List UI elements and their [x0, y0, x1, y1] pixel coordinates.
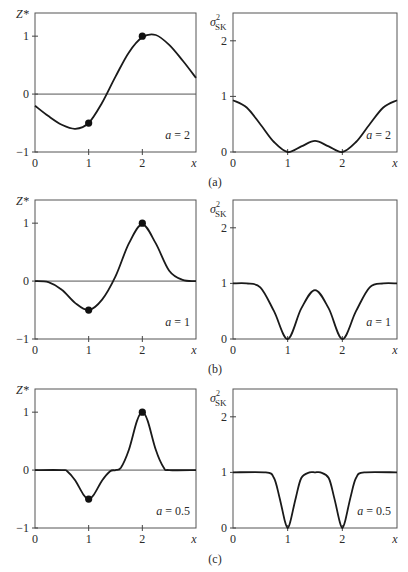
y-tick-label: 0 [221, 145, 227, 159]
x-tick-label: 1 [285, 532, 291, 546]
x-tick-label: 0 [230, 343, 236, 357]
panel-c-left: 10−1012xZ*a = 0.5 [16, 383, 197, 546]
a-annotation: a = 0.5 [357, 504, 391, 518]
x-tick-label: 2 [339, 343, 345, 357]
y-axis-label: σ2SK [210, 13, 227, 32]
x-tick-label: 1 [285, 343, 291, 357]
y-tick-label: −1 [16, 521, 29, 535]
panel-caption: (a) [208, 175, 221, 189]
a-annotation: a = 0.5 [156, 504, 190, 518]
data-point [85, 495, 92, 502]
x-tick-label: 1 [86, 156, 92, 170]
a-annotation: a = 1 [366, 315, 391, 329]
panel-a-right: 210012xσ2SKa = 2 [210, 13, 398, 170]
x-tick-label: 1 [285, 156, 291, 170]
panel-b-right: 210012xσ2SKa = 1 [210, 200, 398, 357]
a-annotation: a = 1 [165, 315, 190, 329]
data-point [85, 119, 92, 126]
variance-curve [233, 472, 397, 528]
y-tick-label: 1 [23, 216, 29, 230]
y-tick-label: 0 [221, 332, 227, 346]
data-point [139, 409, 146, 416]
data-point [139, 33, 146, 40]
data-point [85, 306, 92, 313]
y-axis-label: Z* [16, 7, 29, 21]
y-tick-label: −1 [16, 145, 29, 159]
a-annotation: a = 2 [366, 128, 391, 142]
y-tick-label: −1 [16, 332, 29, 346]
x-axis-label: x [190, 532, 197, 546]
variance-curve [233, 100, 397, 152]
x-axis-label: x [391, 156, 398, 170]
panel-caption: (c) [208, 552, 221, 566]
estimate-curve [35, 224, 196, 310]
data-point [139, 220, 146, 227]
y-axis-label: σ2SK [210, 200, 227, 219]
panel-b-left: 10−1012xZ*a = 1 [16, 194, 197, 357]
x-tick-label: 0 [32, 156, 38, 170]
x-tick-label: 0 [230, 532, 236, 546]
y-tick-label: 0 [23, 87, 29, 101]
y-tick-label: 2 [221, 34, 227, 48]
estimate-curve [35, 412, 196, 499]
y-axis-label: Z* [16, 194, 29, 208]
kriging-figure: 10−1012xZ*a = 2210012xσ2SKa = 210−1012xZ… [0, 0, 408, 572]
y-tick-label: 1 [221, 276, 227, 290]
estimate-curve [35, 34, 196, 128]
panel-caption: (b) [208, 362, 222, 376]
y-axis-label: Z* [16, 383, 29, 397]
x-tick-label: 2 [139, 532, 145, 546]
x-tick-label: 2 [139, 343, 145, 357]
x-axis-label: x [391, 343, 398, 357]
x-tick-label: 0 [32, 532, 38, 546]
y-tick-label: 1 [23, 29, 29, 43]
x-tick-label: 0 [230, 156, 236, 170]
y-tick-label: 0 [23, 274, 29, 288]
x-axis-label: x [190, 156, 197, 170]
x-tick-label: 0 [32, 343, 38, 357]
x-tick-label: 1 [86, 532, 92, 546]
y-tick-label: 2 [221, 410, 227, 424]
a-annotation: a = 2 [165, 128, 190, 142]
x-tick-label: 1 [86, 343, 92, 357]
y-tick-label: 0 [221, 521, 227, 535]
y-axis-label: σ2SK [210, 389, 227, 408]
y-tick-label: 0 [23, 463, 29, 477]
panel-c-right: 210012xσ2SKa = 0.5 [210, 389, 398, 546]
x-tick-label: 2 [139, 156, 145, 170]
x-axis-label: x [190, 343, 197, 357]
y-tick-label: 1 [221, 465, 227, 479]
variance-curve [233, 283, 397, 339]
y-tick-label: 2 [221, 221, 227, 235]
x-tick-label: 2 [339, 532, 345, 546]
x-axis-label: x [391, 532, 398, 546]
y-tick-label: 1 [23, 405, 29, 419]
panel-a-left: 10−1012xZ*a = 2 [16, 7, 197, 170]
x-tick-label: 2 [339, 156, 345, 170]
y-tick-label: 1 [221, 89, 227, 103]
